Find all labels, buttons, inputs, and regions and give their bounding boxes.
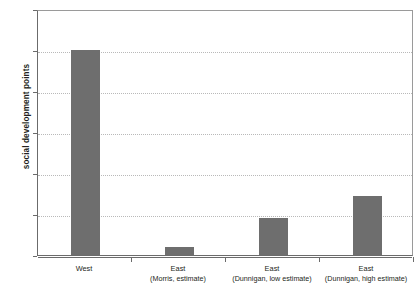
plot-area xyxy=(37,10,413,256)
x-axis-category-label: West xyxy=(37,264,131,274)
x-tick-mark xyxy=(319,257,320,262)
x-tick-mark xyxy=(131,257,132,262)
y-tick-mark xyxy=(33,92,37,93)
x-label-sub: (Dunnigan, low estimate) xyxy=(225,274,319,284)
x-label-main: East xyxy=(171,264,186,273)
bar xyxy=(259,218,288,255)
bars-layer xyxy=(38,11,412,255)
x-label-sub: (Dunnigan, high estimate) xyxy=(319,274,413,284)
x-label-main: East xyxy=(265,264,280,273)
bar xyxy=(353,196,382,255)
x-label-sub: (Morris, estimate) xyxy=(131,274,225,284)
y-axis-title: social development points xyxy=(22,37,31,197)
bar xyxy=(71,50,100,255)
bar xyxy=(165,247,194,255)
y-tick-mark xyxy=(33,51,37,52)
y-tick-mark xyxy=(33,256,37,257)
y-tick-mark xyxy=(33,133,37,134)
x-axis-category-label: East(Morris, estimate) xyxy=(131,264,225,284)
y-tick-mark xyxy=(33,174,37,175)
bar-chart: social development points 05010015020025… xyxy=(0,0,420,293)
x-tick-mark xyxy=(225,257,226,262)
y-tick-mark xyxy=(33,10,37,11)
x-axis-category-label: East(Dunnigan, high estimate) xyxy=(319,264,413,284)
x-tick-mark xyxy=(413,257,414,262)
y-tick-mark xyxy=(33,215,37,216)
x-label-main: West xyxy=(76,264,93,273)
x-label-main: East xyxy=(359,264,374,273)
x-axis-category-label: East(Dunnigan, low estimate) xyxy=(225,264,319,284)
